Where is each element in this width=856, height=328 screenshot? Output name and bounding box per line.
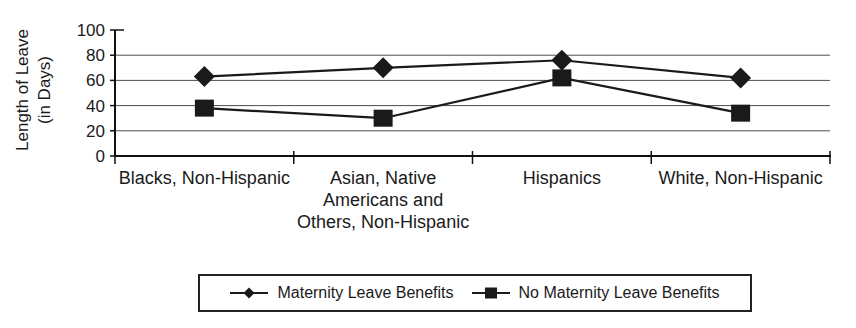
y-tick-label-20: 20 xyxy=(86,122,105,141)
legend: Maternity Leave Benefits No Maternity Le… xyxy=(198,274,752,312)
y-tick-label-80: 80 xyxy=(86,46,105,65)
data-marker-square xyxy=(374,110,393,127)
data-marker-diamond xyxy=(194,66,215,87)
y-tick-label-40: 40 xyxy=(86,97,105,116)
legend-item-maternity-leave-benefits: Maternity Leave Benefits xyxy=(230,284,453,302)
chart-figure: 020406080100Blacks, Non-HispanicAsian, N… xyxy=(0,0,856,328)
y-axis-title: Length of Leave (in Days) xyxy=(12,29,56,151)
data-marker-square xyxy=(195,100,214,117)
x-category-label: Asian, NativeAmericans andOthers, Non-Hi… xyxy=(297,168,469,232)
y-axis-title-line1: Length of Leave xyxy=(12,29,34,151)
y-tick-label-100: 100 xyxy=(77,21,105,40)
series-line-diamond xyxy=(204,60,740,78)
x-category-label: Blacks, Non-Hispanic xyxy=(119,168,290,188)
legend-label-maternity-leave-benefits: Maternity Leave Benefits xyxy=(277,284,453,302)
data-marker-square xyxy=(731,105,750,122)
data-marker-diamond xyxy=(551,50,572,71)
data-marker-diamond xyxy=(373,57,394,78)
data-marker-diamond xyxy=(730,67,751,88)
x-category-label: White, Non-Hispanic xyxy=(659,168,823,188)
legend-diamond-marker-icon xyxy=(230,286,268,300)
legend-item-no-maternity-leave-benefits: No Maternity Leave Benefits xyxy=(472,284,720,302)
series-line-square xyxy=(204,78,740,118)
y-axis-title-line2: (in Days) xyxy=(34,29,56,151)
data-marker-square xyxy=(552,69,571,86)
legend-label-no-maternity-leave-benefits: No Maternity Leave Benefits xyxy=(519,284,720,302)
y-tick-label-60: 60 xyxy=(86,71,105,90)
y-tick-label-0: 0 xyxy=(96,147,105,166)
legend-square-marker-icon xyxy=(472,286,510,300)
x-category-label: Hispanics xyxy=(523,168,601,188)
